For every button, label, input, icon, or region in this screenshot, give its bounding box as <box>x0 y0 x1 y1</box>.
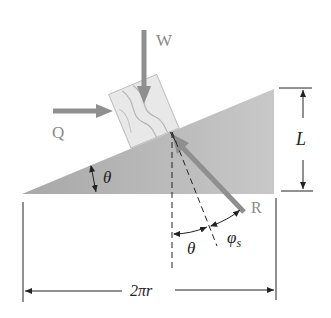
normal-angle-label: θ <box>187 239 195 258</box>
reaction-label: R <box>251 199 262 216</box>
inclined-plane-diagram: W Q R θ φs θ L 2πr <box>0 0 331 318</box>
weight-label: W <box>156 31 173 50</box>
friction-angle-arc <box>211 210 240 226</box>
normal-angle-arc <box>174 227 207 234</box>
friction-angle-label: φs <box>227 228 241 250</box>
force-q-arrow <box>53 104 113 118</box>
base-length-label: 2πr <box>130 282 153 299</box>
incline-angle-label: θ <box>103 168 111 187</box>
height-label: L <box>295 129 306 149</box>
force-q-label: Q <box>52 123 64 142</box>
